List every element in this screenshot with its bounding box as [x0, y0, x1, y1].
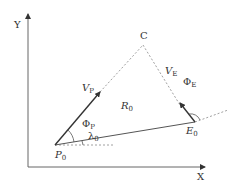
e0-sub: 0	[193, 130, 197, 138]
lambda-arc	[82, 141, 83, 145]
phi-e-label: ΦE	[183, 77, 196, 89]
range-label: R0	[121, 101, 133, 113]
p0-base: P	[55, 149, 62, 160]
r0-base: R	[121, 100, 129, 111]
range-extension-dashed	[195, 110, 228, 122]
phi-e-sub: E	[191, 81, 196, 89]
range-line	[55, 122, 195, 145]
lambda-label: λ0	[88, 131, 99, 143]
r0-sub: 0	[129, 105, 133, 113]
evader-point-label: E0	[186, 126, 198, 138]
diagram-graphics	[0, 0, 238, 188]
x-axis-label: X	[197, 172, 204, 182]
pursuer-velocity-label: VP	[82, 83, 94, 95]
pursuit-evasion-diagram: Y X C VP VE ΦE R0 E0 ΦP λ0 P0	[0, 0, 238, 188]
y-axis-label: Y	[14, 20, 21, 30]
evader-velocity-label: VE	[165, 66, 177, 78]
phi-e-base: Φ	[183, 76, 191, 87]
phi-p-base: Φ	[82, 118, 90, 129]
evader-velocity-vector	[180, 103, 195, 122]
vp-sub: P	[89, 87, 94, 95]
lambda-sub: 0	[94, 135, 98, 143]
ve-sub: E	[172, 70, 177, 78]
phi-p-arc	[68, 130, 74, 142]
p0-sub: 0	[62, 154, 66, 162]
pursuer-point-label: P0	[55, 150, 66, 162]
intercept-point-label: C	[140, 31, 148, 41]
pursuer-path-dashed	[100, 45, 143, 92]
